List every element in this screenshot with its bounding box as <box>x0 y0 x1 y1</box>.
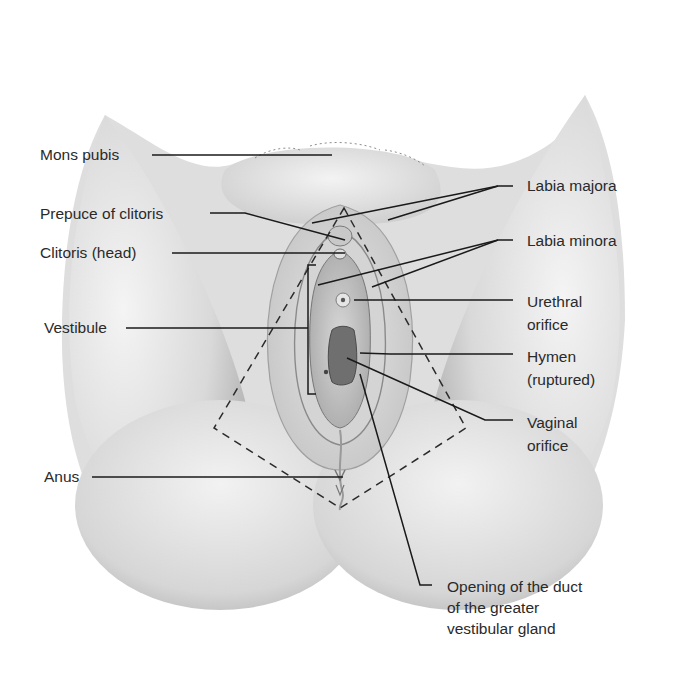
label-labia-majora: Labia majora <box>527 176 617 195</box>
label-urethral-orifice: Urethral orifice <box>527 290 582 336</box>
label-greater-vestibular-gland-duct: Opening of the duct of the greater vesti… <box>447 576 582 639</box>
label-vestibule: Vestibule <box>44 318 107 337</box>
label-labia-minora: Labia minora <box>527 231 617 250</box>
label-anus: Anus <box>44 467 79 486</box>
label-mons-pubis: Mons pubis <box>40 145 119 164</box>
label-vaginal-orifice: Vaginal orifice <box>527 411 578 457</box>
label-clitoris-head: Clitoris (head) <box>40 243 136 262</box>
label-prepuce-of-clitoris: Prepuce of clitoris <box>40 204 163 223</box>
label-hymen-ruptured: Hymen (ruptured) <box>527 345 595 391</box>
